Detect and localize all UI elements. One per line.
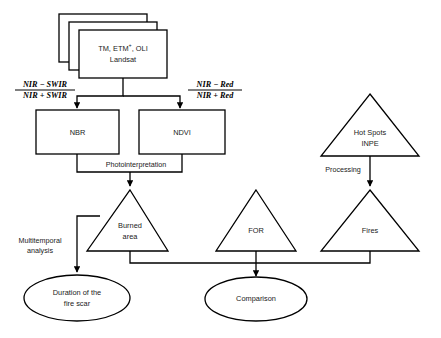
fires-label: Fires [362,226,379,235]
fires-triangle [321,190,419,251]
node-nbr: NBR [36,110,119,154]
node-burned-area: Burned area [87,190,168,251]
comparison-label: Comparison [236,294,276,303]
duration-label-line2: fire scar [64,299,91,308]
flowchart-canvas: TM, ETM+, OLI Landsat NIR − SWIR NIR + S… [0,0,441,338]
node-hotspots: Hot Spots INPE [321,94,419,156]
connector-source-to-nbr [77,78,123,108]
multitemporal-label-line2: analysis [27,246,53,255]
hotspots-label-line2: INPE [361,139,378,148]
multitemporal-label-line1: Multitemporal [18,236,62,245]
connector-processing: Processing [320,156,370,186]
burned-area-label-line2: area [123,232,139,241]
connector-multitemporal: Multitemporal analysis [14,216,100,272]
hotspots-label-line1: Hot Spots [354,128,387,137]
for-label: FOR [248,226,264,235]
formula-nbr-numerator: NIR − SWIR [22,80,68,89]
processing-label: Processing [325,165,361,174]
source-stack-label-line1: TM, ETM+, OLI [98,43,148,53]
formula-ndvi: NIR − Red NIR + Red [188,80,242,100]
connector-comparison [130,251,370,276]
formula-nbr: NIR − SWIR NIR + SWIR [15,80,75,100]
connector-source-split [77,78,180,108]
formula-ndvi-denominator: NIR + Red [196,91,234,100]
node-for: FOR [216,190,296,251]
formula-nbr-denominator: NIR + SWIR [22,91,67,100]
ndvi-label: NDVI [173,128,191,137]
burned-area-label-line1: Burned [118,221,142,230]
connector-photointerpretation: Photointerpretation [77,154,182,186]
node-comparison: Comparison [205,277,307,321]
node-ndvi: NDVI [139,110,225,154]
photointerpretation-label: Photointerpretation [106,160,167,169]
nbr-label: NBR [70,128,86,137]
for-triangle [216,190,296,251]
flowchart-diagram: TM, ETM+, OLI Landsat NIR − SWIR NIR + S… [0,0,441,338]
connector-comparison-bar [130,251,370,263]
duration-label-line1: Duration of the [53,288,101,297]
source-stack-label-line2: Landsat [110,55,136,64]
source-stack-group: TM, ETM+, OLI Landsat [59,14,167,78]
connector-source-to-ndvi [123,96,180,108]
node-fires: Fires [321,190,419,251]
formula-ndvi-numerator: NIR − Red [196,80,235,89]
node-duration: Duration of the fire scar [24,275,130,321]
